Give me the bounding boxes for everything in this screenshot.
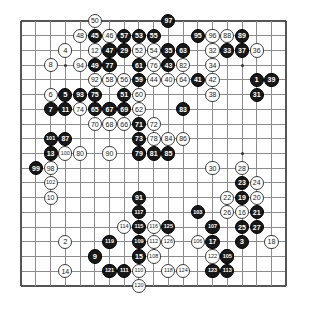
stone-white-68[interactable]: 68: [102, 117, 116, 131]
stone-white-4[interactable]: 4: [58, 43, 72, 57]
stone-white-10[interactable]: 10: [44, 191, 58, 205]
stone-white-86[interactable]: 86: [176, 132, 190, 146]
stone-black-51[interactable]: 51: [117, 88, 131, 102]
stone-white-74[interactable]: 74: [73, 102, 87, 116]
stone-white-54[interactable]: 54: [147, 43, 161, 57]
stone-black-1[interactable]: 1: [250, 73, 264, 87]
stone-white-118[interactable]: 118: [161, 264, 175, 278]
stone-white-112[interactable]: 112: [147, 235, 161, 249]
stone-black-47[interactable]: 47: [102, 43, 116, 57]
stone-white-108[interactable]: 108: [147, 249, 161, 263]
stone-black-97[interactable]: 97: [161, 14, 175, 28]
stone-black-93[interactable]: 93: [73, 88, 87, 102]
stone-white-102[interactable]: 102: [44, 176, 58, 190]
stone-white-42[interactable]: 42: [205, 73, 219, 87]
stone-white-64[interactable]: 64: [176, 73, 190, 87]
stone-white-30[interactable]: 30: [205, 161, 219, 175]
stone-white-22[interactable]: 22: [220, 191, 234, 205]
stone-black-49[interactable]: 49: [88, 58, 102, 72]
stone-white-90[interactable]: 90: [102, 146, 116, 160]
stone-black-109[interactable]: 109: [132, 235, 146, 249]
stone-black-35[interactable]: 35: [161, 43, 175, 57]
stone-white-92[interactable]: 92: [88, 73, 102, 87]
stone-white-106[interactable]: 106: [191, 235, 205, 249]
stone-black-77[interactable]: 77: [102, 58, 116, 72]
stone-black-123[interactable]: 123: [205, 264, 219, 278]
stone-white-2[interactable]: 2: [58, 235, 72, 249]
stone-black-13[interactable]: 13: [44, 146, 58, 160]
stone-white-120[interactable]: 120: [132, 279, 146, 293]
stone-black-37[interactable]: 37: [235, 43, 249, 57]
stone-black-121[interactable]: 121: [102, 264, 116, 278]
stone-black-17[interactable]: 17: [205, 235, 219, 249]
stone-white-82[interactable]: 82: [176, 58, 190, 72]
stone-black-75[interactable]: 75: [88, 88, 102, 102]
stone-black-71[interactable]: 71: [132, 117, 146, 131]
stone-white-80[interactable]: 80: [73, 146, 87, 160]
stone-white-28[interactable]: 28: [235, 161, 249, 175]
stone-black-111[interactable]: 111: [117, 264, 131, 278]
stone-black-27[interactable]: 27: [250, 220, 264, 234]
stone-white-94[interactable]: 94: [73, 58, 87, 72]
stone-white-62[interactable]: 62: [132, 102, 146, 116]
stone-white-12[interactable]: 12: [88, 43, 102, 57]
stone-white-20[interactable]: 20: [250, 191, 264, 205]
stone-black-7[interactable]: 7: [44, 102, 58, 116]
stone-black-5[interactable]: 5: [58, 88, 72, 102]
stone-black-31[interactable]: 31: [250, 88, 264, 102]
stone-white-88[interactable]: 88: [220, 29, 234, 43]
stone-black-119[interactable]: 119: [102, 235, 116, 249]
stone-white-46[interactable]: 46: [102, 29, 116, 43]
stone-white-84[interactable]: 84: [161, 132, 175, 146]
stone-white-96[interactable]: 96: [205, 29, 219, 43]
stone-black-15[interactable]: 15: [132, 249, 146, 263]
stone-white-44[interactable]: 44: [147, 73, 161, 87]
stone-black-21[interactable]: 21: [250, 205, 264, 219]
stone-white-124[interactable]: 124: [176, 264, 190, 278]
stone-black-67[interactable]: 67: [102, 102, 116, 116]
stone-black-81[interactable]: 81: [147, 146, 161, 160]
stone-black-87[interactable]: 87: [58, 132, 72, 146]
stone-black-105[interactable]: 105: [220, 249, 234, 263]
stone-black-57[interactable]: 57: [117, 29, 131, 43]
stone-white-78[interactable]: 78: [147, 132, 161, 146]
stone-white-50[interactable]: 50: [88, 14, 102, 28]
stone-black-73[interactable]: 73: [132, 132, 146, 146]
stone-black-89[interactable]: 89: [235, 29, 249, 43]
stone-black-69[interactable]: 69: [117, 102, 131, 116]
stone-black-53[interactable]: 53: [132, 29, 146, 43]
stone-white-26[interactable]: 26: [220, 205, 234, 219]
stone-black-91[interactable]: 91: [132, 191, 146, 205]
stone-black-61[interactable]: 61: [132, 58, 146, 72]
stone-black-41[interactable]: 41: [191, 73, 205, 87]
stone-white-100[interactable]: 100: [58, 146, 72, 160]
stone-black-65[interactable]: 65: [88, 102, 102, 116]
stone-black-113[interactable]: 113: [220, 264, 234, 278]
stone-black-9[interactable]: 9: [88, 249, 102, 263]
stone-white-14[interactable]: 14: [58, 264, 72, 278]
stone-white-40[interactable]: 40: [161, 73, 175, 87]
stone-black-117[interactable]: 117: [132, 205, 146, 219]
stone-white-52[interactable]: 52: [132, 43, 146, 57]
stone-white-70[interactable]: 70: [88, 117, 102, 131]
stone-black-23[interactable]: 23: [235, 176, 249, 190]
stone-white-76[interactable]: 76: [147, 58, 161, 72]
stone-white-16[interactable]: 16: [235, 205, 249, 219]
stone-white-34[interactable]: 34: [205, 58, 219, 72]
stone-black-83[interactable]: 83: [176, 102, 190, 116]
stone-black-55[interactable]: 55: [147, 29, 161, 43]
stone-black-63[interactable]: 63: [176, 43, 190, 57]
stone-white-110[interactable]: 110: [132, 264, 146, 278]
stone-black-85[interactable]: 85: [161, 146, 175, 160]
stone-white-126[interactable]: 126: [161, 235, 175, 249]
stone-black-115[interactable]: 115: [132, 220, 146, 234]
stone-black-125[interactable]: 125: [161, 220, 175, 234]
stone-white-58[interactable]: 58: [102, 73, 116, 87]
stone-black-95[interactable]: 95: [191, 29, 205, 43]
stone-white-122[interactable]: 122: [205, 249, 219, 263]
stone-white-114[interactable]: 114: [117, 220, 131, 234]
stone-black-11[interactable]: 11: [58, 102, 72, 116]
stone-white-72[interactable]: 72: [147, 117, 161, 131]
stone-black-107[interactable]: 107: [205, 220, 219, 234]
stone-white-56[interactable]: 56: [117, 73, 131, 87]
